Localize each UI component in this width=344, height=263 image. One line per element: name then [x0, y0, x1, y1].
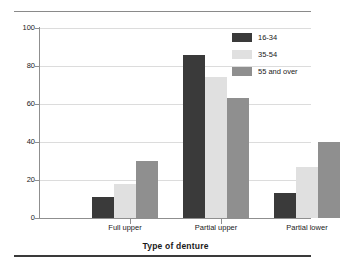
- x-axis-title: Type of denture: [40, 241, 311, 251]
- y-tick-label-0: 0: [9, 214, 35, 222]
- gridline-60: [40, 104, 311, 105]
- y-tick-label-80: 80: [9, 62, 35, 70]
- legend-label-16-34: 16-34: [258, 33, 277, 42]
- bar: [274, 193, 296, 218]
- bar: [92, 197, 114, 218]
- y-tick-label-60: 60: [9, 100, 35, 108]
- bar: [296, 167, 318, 218]
- bar: [227, 98, 249, 218]
- y-tick-label-40: 40: [9, 138, 35, 146]
- bar: [318, 142, 340, 218]
- x-axis-line: [40, 218, 311, 219]
- y-tick-mark-0: [35, 218, 39, 219]
- y-tick-label-20: 20: [9, 176, 35, 184]
- bar: [114, 184, 136, 218]
- legend-item-35-54: 35-54: [232, 48, 298, 61]
- chart-legend: 16-34 35-54 55 and over: [232, 31, 298, 82]
- gridline-40: [40, 142, 311, 143]
- bar: [136, 161, 158, 218]
- legend-swatch-icon-35-54: [232, 50, 252, 59]
- y-axis-tick-labels: 100 80 60 40 20 0: [5, 0, 35, 263]
- x-tick-label: Full upper: [80, 223, 170, 232]
- y-tick-label-100: 100: [9, 24, 35, 32]
- top-divider-rule: [14, 11, 311, 12]
- y-tick-mark-40: [35, 142, 39, 143]
- legend-swatch-icon-16-34: [232, 33, 252, 42]
- legend-label-35-54: 35-54: [258, 50, 277, 59]
- y-tick-mark-80: [35, 66, 39, 67]
- bottom-divider-rule: [14, 255, 311, 257]
- bar: [183, 55, 205, 218]
- legend-label-55-and-over: 55 and over: [258, 67, 298, 76]
- x-tick-label: Partial lower: [262, 223, 344, 232]
- bar: [205, 77, 227, 218]
- y-tick-mark-100: [35, 28, 39, 29]
- legend-item-55-and-over: 55 and over: [232, 65, 298, 78]
- x-tick-label: Partial upper: [171, 223, 261, 232]
- legend-item-16-34: 16-34: [232, 31, 298, 44]
- y-tick-mark-60: [35, 104, 39, 105]
- y-tick-mark-20: [35, 180, 39, 181]
- gridline-20: [40, 180, 311, 181]
- gridline-100: [40, 28, 311, 29]
- legend-swatch-icon-55-and-over: [232, 67, 252, 76]
